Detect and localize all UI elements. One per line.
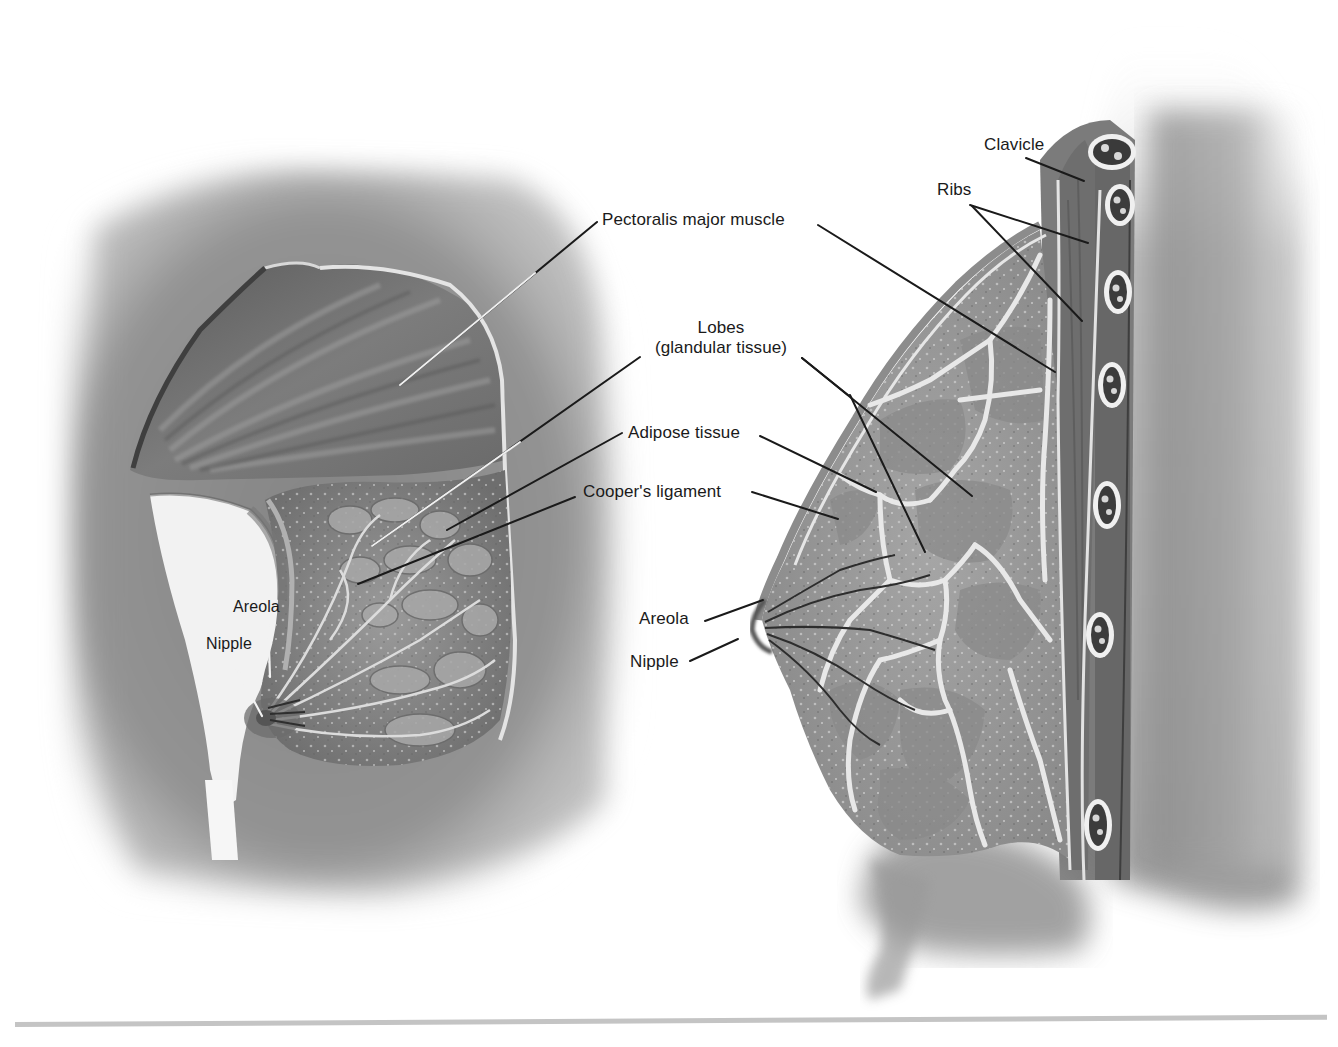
anatomy-illustration [0, 0, 1338, 1047]
label-nipple-right: Nipple [630, 652, 679, 672]
label-areola-right: Areola [639, 609, 689, 629]
label-coopers-ligament: Cooper's ligament [583, 482, 721, 502]
label-pectoralis-major-muscle: Pectoralis major muscle [602, 210, 785, 230]
figure-stage: Pectoralis major muscle Lobes (glandular… [0, 0, 1338, 1047]
label-areola-left: Areola [233, 597, 280, 617]
left-panel-illustration [70, 170, 630, 900]
leader-nipple-right [690, 639, 738, 661]
clavicle-bone [1088, 134, 1136, 170]
label-lobes-line1: Lobes [640, 318, 802, 338]
label-ribs: Ribs [937, 180, 971, 200]
label-clavicle: Clavicle [984, 135, 1044, 155]
label-lobes-line2: (glandular tissue) [640, 338, 802, 358]
label-adipose-tissue: Adipose tissue [628, 423, 740, 443]
label-lobes: Lobes (glandular tissue) [640, 318, 802, 358]
label-nipple-left: Nipple [206, 634, 252, 654]
